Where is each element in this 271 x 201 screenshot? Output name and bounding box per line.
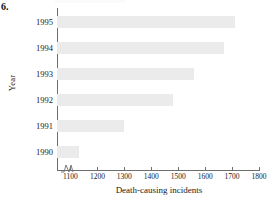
bar-1992: [57, 94, 173, 106]
bar-1995: [57, 16, 235, 28]
figure-panel: 6. Year 199519941993199219911990 1100120…: [0, 0, 271, 201]
x-tick-label-1300: 1300: [109, 172, 139, 182]
x-tick-1100: [70, 167, 71, 171]
x-tick-label-1600: 1600: [190, 172, 220, 182]
x-tick-1700: [232, 167, 233, 171]
x-tick-1400: [151, 167, 152, 171]
x-tick-label-1500: 1500: [163, 172, 193, 182]
bar-1990: [57, 146, 79, 158]
x-tick-label-1800: 1800: [244, 172, 271, 182]
x-tick-1200: [97, 167, 98, 171]
bar-row: 1993: [0, 62, 271, 88]
x-tick-1300: [124, 167, 125, 171]
x-tick-label-1100: 1100: [55, 172, 85, 182]
scan-artifact: [55, 0, 125, 3]
y-tick-label-1992: 1992: [7, 94, 53, 106]
x-axis-line: [57, 170, 259, 171]
y-tick-label-1990: 1990: [7, 146, 53, 158]
bar-1994: [57, 42, 224, 54]
y-tick-label-1995: 1995: [7, 16, 53, 28]
bar-row: 1990: [0, 140, 271, 166]
x-tick-label-1200: 1200: [82, 172, 112, 182]
bar-row: 1995: [0, 10, 271, 36]
x-tick-label-1700: 1700: [217, 172, 247, 182]
bar-1991: [57, 120, 124, 132]
x-tick-1500: [178, 167, 179, 171]
x-tick-1800: [259, 167, 260, 171]
y-tick-label-1993: 1993: [7, 68, 53, 80]
bar-1993: [57, 68, 194, 80]
bar-row: 1992: [0, 88, 271, 114]
x-axis-title: Death-causing incidents: [57, 185, 261, 196]
bar-row: 1991: [0, 114, 271, 140]
x-tick-1600: [205, 167, 206, 171]
y-tick-label-1994: 1994: [7, 42, 53, 54]
y-tick-label-1991: 1991: [7, 120, 53, 132]
x-tick-label-1400: 1400: [136, 172, 166, 182]
bar-row: 1994: [0, 36, 271, 62]
